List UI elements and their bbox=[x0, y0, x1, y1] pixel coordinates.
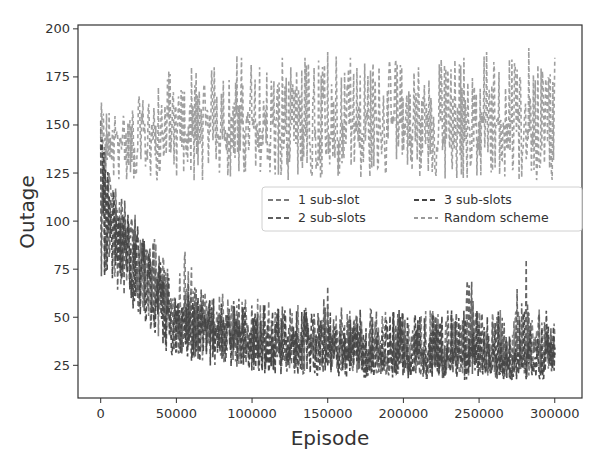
x-tick-label: 300000 bbox=[530, 406, 580, 421]
x-tick-label: 150000 bbox=[303, 406, 353, 421]
y-axis-title: Outage bbox=[15, 175, 39, 249]
y-tick-label: 200 bbox=[45, 21, 70, 36]
x-tick-label: 250000 bbox=[454, 406, 504, 421]
y-tick-label: 175 bbox=[45, 69, 70, 84]
y-tick-label: 75 bbox=[53, 262, 70, 277]
legend-label: Random scheme bbox=[444, 210, 549, 225]
y-tick-label: 125 bbox=[45, 166, 70, 181]
legend-label: 3 sub-slots bbox=[444, 192, 512, 207]
y-tick-label: 100 bbox=[45, 214, 70, 229]
x-tick-label: 100000 bbox=[227, 406, 277, 421]
line-chart: 050000100000150000200000250000300000 255… bbox=[0, 0, 599, 465]
x-tick-label: 200000 bbox=[379, 406, 429, 421]
legend-label: 2 sub-slots bbox=[298, 210, 366, 225]
x-axis-title: Episode bbox=[291, 426, 370, 450]
x-tick-label: 0 bbox=[97, 406, 105, 421]
y-tick-label: 150 bbox=[45, 117, 70, 132]
legend: 1 sub-slot2 sub-slots3 sub-slotsRandom s… bbox=[262, 187, 582, 231]
y-tick-label: 50 bbox=[53, 310, 70, 325]
legend-label: 1 sub-slot bbox=[298, 192, 359, 207]
x-tick-label: 50000 bbox=[156, 406, 197, 421]
y-tick-label: 25 bbox=[53, 358, 70, 373]
